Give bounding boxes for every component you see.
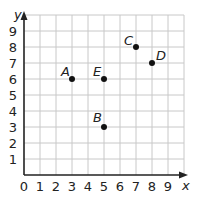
point-label: A <box>60 64 70 79</box>
y-tick-label: 2 <box>9 136 17 151</box>
y-tick-label: 3 <box>9 120 17 135</box>
x-tick-label: 8 <box>148 179 156 194</box>
data-point <box>149 60 155 66</box>
x-tick-label: 0 <box>20 179 28 194</box>
x-axis-label: x <box>181 178 190 193</box>
x-tick-label: 9 <box>164 179 172 194</box>
x-tick-label: 2 <box>52 179 60 194</box>
data-point <box>101 76 107 82</box>
y-tick-label: 4 <box>9 104 17 119</box>
x-tick-label: 3 <box>68 179 76 194</box>
x-tick-label: 4 <box>84 179 92 194</box>
y-tick-label: 6 <box>9 72 17 87</box>
y-tick-label: 8 <box>9 40 17 55</box>
x-tick-label: 7 <box>132 179 140 194</box>
point-label: E <box>93 64 102 79</box>
y-tick-label: 9 <box>9 24 17 39</box>
data-point <box>133 44 139 50</box>
y-axis-label: y <box>13 7 22 22</box>
x-tick-label: 1 <box>36 179 44 194</box>
point-label: D <box>156 48 166 63</box>
coordinate-grid-chart: 0123456789123456789xyABCDE <box>0 0 197 197</box>
x-tick-label: 5 <box>100 179 108 194</box>
x-tick-label: 6 <box>116 179 124 194</box>
point-label: C <box>124 33 134 48</box>
y-tick-label: 5 <box>9 88 17 103</box>
y-tick-label: 1 <box>9 152 17 167</box>
y-tick-label: 7 <box>9 56 17 71</box>
point-label: B <box>93 110 102 125</box>
